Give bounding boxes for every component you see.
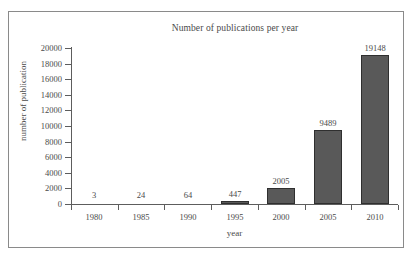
bar: [267, 188, 295, 204]
chart-figure: Number of publications per year number o…: [0, 0, 413, 259]
y-tick-label: 20000: [18, 43, 62, 53]
bar: [221, 201, 249, 204]
bar-value-label: 447: [205, 189, 265, 199]
x-tick-label: 1985: [118, 212, 164, 222]
y-tick-label: 4000: [18, 168, 62, 178]
y-tick-label: 8000: [18, 137, 62, 147]
chart-title: Number of publications per year: [70, 23, 400, 33]
x-tick-label: 2010: [352, 212, 398, 222]
bar-value-label: 19148: [345, 43, 405, 53]
x-tick-mark: [305, 205, 306, 210]
x-tick-label: 2005: [305, 212, 351, 222]
bar: [361, 55, 389, 204]
bar: [314, 130, 342, 204]
y-tick-label: 0: [18, 199, 62, 209]
y-tick-label: 10000: [18, 121, 62, 131]
bar-value-label: 2005: [251, 176, 311, 186]
y-tick-label: 16000: [18, 74, 62, 84]
y-tick-label: 2000: [18, 183, 62, 193]
x-tick-label: 1990: [165, 212, 211, 222]
x-tick-mark: [118, 205, 119, 210]
y-tick-label: 6000: [18, 152, 62, 162]
x-axis-line: [71, 204, 398, 205]
x-tick-mark: [211, 205, 212, 210]
x-tick-mark: [164, 205, 165, 210]
x-tick-mark: [258, 205, 259, 210]
x-tick-label: 1995: [212, 212, 258, 222]
x-tick-label: 1980: [71, 212, 117, 222]
x-tick-mark: [398, 205, 399, 210]
x-tick-mark: [71, 205, 72, 210]
y-tick-label: 14000: [18, 90, 62, 100]
x-tick-mark: [351, 205, 352, 210]
plot-area: 324644472005948919148: [71, 48, 398, 204]
y-tick-label: 12000: [18, 105, 62, 115]
y-tick-label: 18000: [18, 59, 62, 69]
x-tick-label: 2000: [258, 212, 304, 222]
x-axis-title: year: [71, 228, 398, 238]
bar-value-label: 9489: [298, 118, 358, 128]
